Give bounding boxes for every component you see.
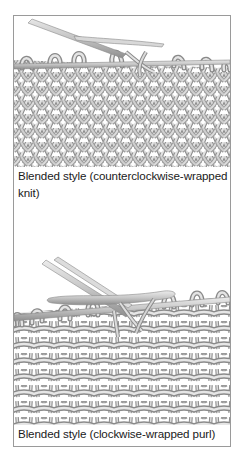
knit-caption: Blended style (counterclockwise-wrapped … [18, 167, 228, 201]
purl-caption-line1: Blended style (clockwise-wrapped purl) [18, 425, 228, 442]
figure-frame: Blended style (counterclockwise-wrapped … [13, 15, 231, 447]
knit-caption-line1: Blended style (counterclockwise-wrapped [18, 167, 228, 184]
purl-caption: Blended style (clockwise-wrapped purl) [18, 425, 228, 442]
knit-caption-line2: knit) [18, 184, 228, 201]
knit-illustration [14, 16, 230, 167]
purl-illustration [14, 241, 230, 425]
